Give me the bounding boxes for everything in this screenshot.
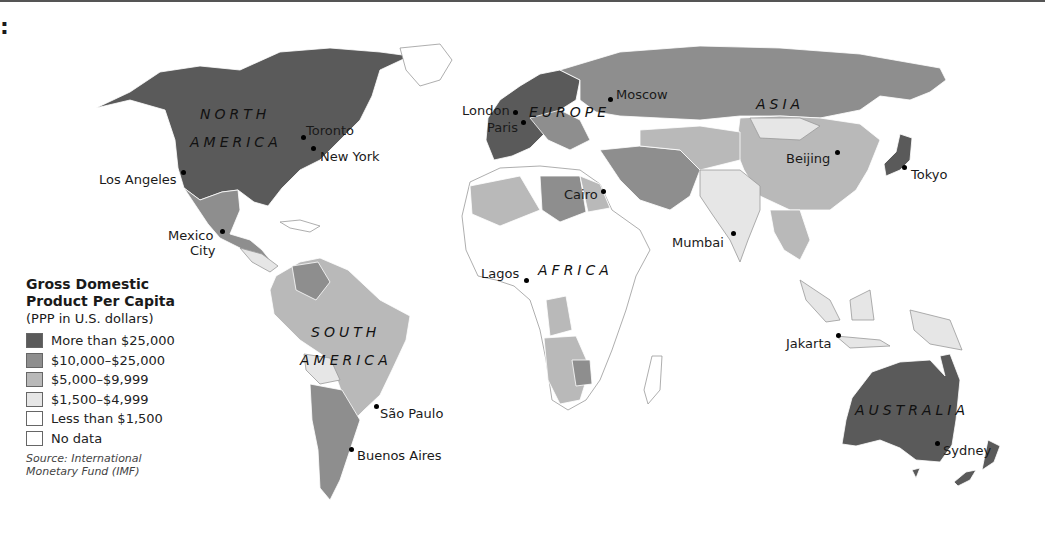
city-mexico-city-1: Mexico xyxy=(168,229,213,243)
legend-swatch xyxy=(26,411,43,426)
legend-label: Less than $1,500 xyxy=(51,411,163,426)
label-australia: AUSTRALIA xyxy=(855,402,969,418)
city-cairo: Cairo xyxy=(564,188,598,202)
city-london: London xyxy=(462,104,510,118)
city-new-york: New York xyxy=(320,150,380,164)
legend-item: $1,500–$4,999 xyxy=(26,390,226,410)
legend-item: $10,000–$25,000 xyxy=(26,351,226,371)
city-sydney: Sydney xyxy=(943,444,991,458)
city-dot-sydney xyxy=(935,441,940,446)
city-dot-cairo xyxy=(601,189,606,194)
legend-label: $10,000–$25,000 xyxy=(51,353,165,368)
city-dot-tokyo xyxy=(902,165,907,170)
city-lagos: Lagos xyxy=(481,267,519,281)
city-dot-lagos xyxy=(524,278,529,283)
city-dot-jakarta xyxy=(836,333,841,338)
source-line-1: Source: International xyxy=(26,452,226,465)
legend-swatch xyxy=(26,431,43,446)
city-beijing: Beijing xyxy=(786,152,830,166)
city-mexico-city-2: City xyxy=(190,244,215,258)
city-paris: Paris xyxy=(487,121,518,135)
city-toronto: Toronto xyxy=(306,124,354,138)
city-los-angeles: Los Angeles xyxy=(99,173,177,187)
city-dot-buenos-aires xyxy=(349,447,354,452)
legend: Gross Domestic Product Per Capita (PPP i… xyxy=(26,276,226,478)
city-dot-london xyxy=(513,110,518,115)
legend-label: $1,500–$4,999 xyxy=(51,392,148,407)
legend-item: Less than $1,500 xyxy=(26,409,226,429)
legend-label: $5,000–$9,999 xyxy=(51,372,148,387)
city-dot-moscow xyxy=(608,97,613,102)
legend-label: No data xyxy=(51,431,102,446)
city-moscow: Moscow xyxy=(616,88,668,102)
region-russia xyxy=(560,46,946,120)
legend-swatch xyxy=(26,392,43,407)
legend-label: More than $25,000 xyxy=(51,333,175,348)
city-dot-paris xyxy=(521,120,526,125)
city-tokyo: Tokyo xyxy=(911,168,947,182)
label-north-america-2: AMERICA xyxy=(190,134,282,150)
city-buenos-aires: Buenos Aires xyxy=(357,449,442,463)
label-europe: EUROPE xyxy=(529,104,610,120)
source-line-2: Monetary Fund (IMF) xyxy=(26,465,226,478)
legend-swatch xyxy=(26,333,43,348)
label-south-america-1: SOUTH xyxy=(311,324,380,340)
city-jakarta: Jakarta xyxy=(786,337,831,351)
label-africa: AFRICA xyxy=(538,262,613,278)
legend-title-2: Product Per Capita xyxy=(26,293,226,310)
legend-item: More than $25,000 xyxy=(26,331,226,351)
city-dot-mexico-city xyxy=(220,229,225,234)
city-dot-new-york xyxy=(311,146,316,151)
city-dot-beijing xyxy=(835,150,840,155)
region-japan xyxy=(884,134,912,176)
city-dot-mumbai xyxy=(731,231,736,236)
legend-swatch xyxy=(26,372,43,387)
label-south-america-2: AMERICA xyxy=(300,352,392,368)
label-asia: ASIA xyxy=(756,96,804,112)
legend-subtitle: (PPP in U.S. dollars) xyxy=(26,310,226,328)
legend-item: No data xyxy=(26,429,226,449)
label-north-america-1: NORTH xyxy=(200,106,270,122)
city-dot-sao-paulo xyxy=(374,404,379,409)
legend-swatch xyxy=(26,353,43,368)
legend-item: $5,000–$9,999 xyxy=(26,370,226,390)
city-dot-los-angeles xyxy=(181,170,186,175)
city-sao-paulo: São Paulo xyxy=(380,407,443,421)
city-mumbai: Mumbai xyxy=(672,236,724,250)
legend-title-1: Gross Domestic xyxy=(26,276,226,293)
